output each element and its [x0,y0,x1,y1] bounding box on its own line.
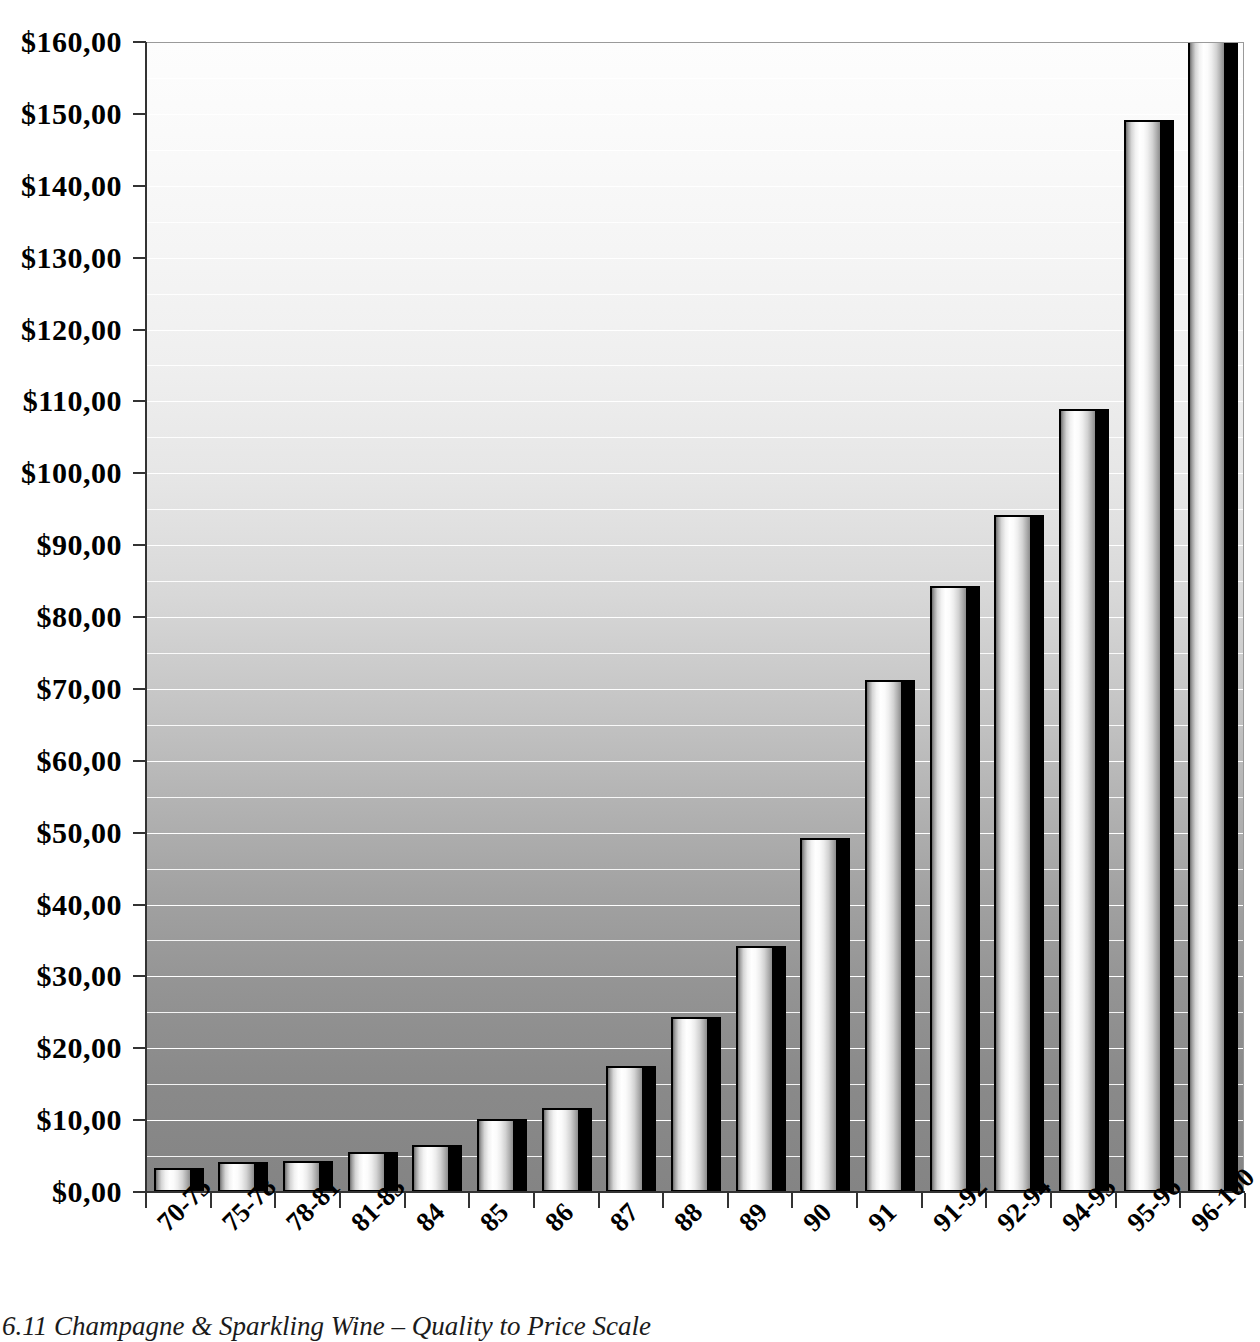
x-axis-tick-label: 87 [604,1197,645,1238]
bar-top-bevel [643,1066,656,1073]
bar-side-shadow [708,1024,721,1192]
bar-top-bevel [837,838,850,845]
y-axis-tick [133,688,146,690]
gridline [145,365,1244,366]
x-axis-tick [856,1193,858,1208]
bar-front-face [671,1017,709,1192]
y-axis-tick-label: $0,00 [52,1175,122,1209]
x-axis-tick [468,1193,470,1208]
bar-side-shadow [579,1115,592,1192]
x-axis-tick-label: 89 [733,1197,774,1238]
x-axis-tick-label: 88 [668,1197,709,1238]
bar-top-bevel [579,1108,592,1115]
gridline [145,186,1244,187]
bar [930,586,968,1192]
bar-top-bevel [967,586,980,593]
y-axis-tick [133,41,146,43]
bar-top-bevel [1161,120,1174,127]
bar-side-shadow [449,1152,462,1192]
y-axis-tick-label: $100,00 [21,456,122,490]
x-axis-tick [533,1193,535,1208]
bar [542,1108,580,1192]
y-axis-tick-label: $40,00 [37,888,123,922]
y-axis-tick [133,616,146,618]
bar [671,1017,709,1192]
bar [1059,409,1097,1192]
y-axis-tick [133,257,146,259]
bar-front-face [412,1145,450,1192]
bar-top-bevel [773,946,786,953]
y-axis-tick [133,832,146,834]
plot-area [145,42,1244,1192]
gridline [145,294,1244,295]
bar [736,946,774,1192]
bar [800,838,838,1192]
bar [865,680,903,1192]
bar-top-bevel [449,1145,462,1152]
bar-side-shadow [967,593,980,1192]
y-axis-tick [133,185,146,187]
y-axis-tick [133,329,146,331]
bar-top-bevel [902,680,915,687]
bar [606,1066,644,1193]
bar-side-shadow [773,953,786,1192]
y-axis-tick [133,975,146,977]
bar-front-face [865,680,903,1192]
x-axis-tick-label: 91 [862,1197,903,1238]
gridline [145,401,1244,402]
bar [994,515,1032,1192]
y-axis-tick-label: $80,00 [37,600,123,634]
bar-front-face [1059,409,1097,1192]
bar-front-face [477,1119,515,1192]
y-axis-tick-label: $150,00 [21,97,122,131]
x-axis-tick-label: 84 [410,1197,451,1238]
y-axis-tick [133,1119,146,1121]
bar-side-shadow [837,845,850,1192]
y-axis-tick-label: $160,00 [21,25,122,59]
y-axis-tick-label: $60,00 [37,744,123,778]
bar-side-shadow [902,687,915,1192]
y-axis-tick-label: $130,00 [21,241,122,275]
gridline [145,150,1244,151]
y-axis-tick-label: $10,00 [37,1103,123,1137]
y-axis-tick [133,1047,146,1049]
bar-front-face [736,946,774,1192]
y-axis-tick-label: $90,00 [37,528,123,562]
bar-top-bevel [514,1119,527,1126]
bar-side-shadow [1096,416,1109,1192]
y-axis-tick [133,904,146,906]
y-axis-tick-label: $110,00 [23,384,122,418]
x-axis-tick-label: 85 [474,1197,515,1238]
bar [1188,42,1226,1192]
y-axis-tick-label: $20,00 [37,1031,123,1065]
y-axis-tick-label: $50,00 [37,816,123,850]
x-axis-tick [598,1193,600,1208]
y-axis-tick [133,760,146,762]
bar-top-bevel [708,1017,721,1024]
x-axis-tick [145,1193,147,1208]
y-axis-tick [133,472,146,474]
bar-front-face [606,1066,644,1193]
bar-top-bevel [385,1152,398,1159]
gridline [145,78,1244,79]
bar-top-bevel [1096,409,1109,416]
x-axis-tick-label: 90 [797,1197,838,1238]
bar-front-face [1188,42,1226,1192]
gridline [145,222,1244,223]
y-axis-tick [133,113,146,115]
bar [1124,120,1162,1192]
bar-side-shadow [643,1073,656,1193]
x-axis-tick [662,1193,664,1208]
x-axis-tick [921,1193,923,1208]
x-axis-tick [791,1193,793,1208]
gridline [145,114,1244,115]
bar-front-face [1124,120,1162,1192]
x-axis-tick [727,1193,729,1208]
y-axis-tick-label: $70,00 [37,672,123,706]
bar [477,1119,515,1192]
bar-front-face [994,515,1032,1192]
bar-top-bevel [1031,515,1044,522]
bar-side-shadow [514,1126,527,1192]
bar-front-face [542,1108,580,1192]
